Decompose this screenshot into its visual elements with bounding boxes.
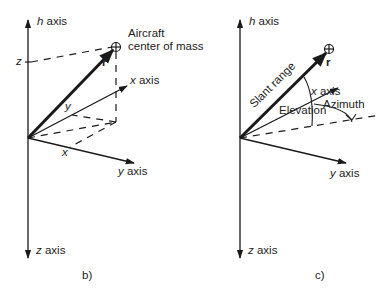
z-axis-label-b: z axis: [36, 245, 65, 257]
y-axis-label-b: y axis: [118, 166, 147, 178]
aircraft-label: Aircraftcenter of mass: [128, 27, 203, 53]
y-component-label: y: [65, 101, 71, 113]
x-axis-label-c: x axis: [311, 86, 340, 98]
r-vector-label-b: r: [102, 57, 106, 69]
elevation-label: Elevation: [279, 105, 326, 117]
x-axis-line: [28, 86, 127, 138]
x-axis-label-b: x axis: [130, 75, 159, 87]
caption-c: c): [315, 270, 325, 282]
z-axis-label-c: z axis: [248, 245, 277, 257]
y-axis-line: [28, 138, 134, 163]
figure-c-geometry: [240, 20, 380, 258]
azimuth-label: Azimuth: [323, 99, 365, 111]
h-axis-label-b: h axis: [37, 16, 67, 28]
figure-b-geometry: [25, 20, 134, 258]
r-vector-label-c: r: [326, 57, 330, 69]
r-vector-line: [28, 50, 113, 138]
y-axis-label-c: y axis: [330, 168, 359, 180]
z-component-label: z: [16, 56, 22, 68]
caption-b: b): [82, 270, 92, 282]
x-component-label: x: [62, 147, 68, 159]
h-axis-label-c: h axis: [249, 16, 279, 28]
y-axis-line: [240, 138, 346, 163]
